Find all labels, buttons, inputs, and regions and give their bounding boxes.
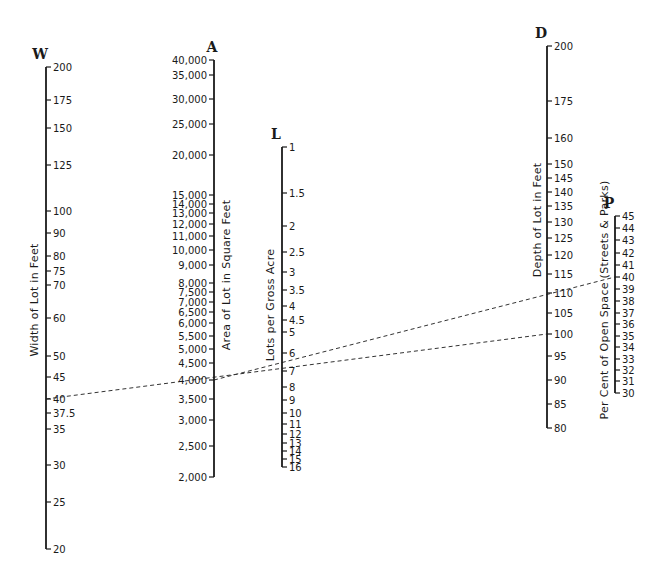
tick-label: 50 <box>53 351 66 362</box>
tick-label: 35 <box>622 331 635 342</box>
tick-label: 4.5 <box>289 315 305 326</box>
tick-label: 3 <box>289 267 295 278</box>
tick-label: 125 <box>554 233 573 244</box>
tick-label: 10 <box>289 408 302 419</box>
axis-d: D200175160150145140135130125120115110105… <box>531 25 573 434</box>
tick-label: 40 <box>622 272 635 283</box>
axis-title: W <box>31 46 48 62</box>
axis-title: D <box>535 25 547 41</box>
tick-label: 9 <box>289 395 295 406</box>
tick-label: 60 <box>53 313 66 324</box>
tick-label: 130 <box>554 217 573 228</box>
tick-label: 37 <box>622 308 635 319</box>
tick-label: 34 <box>622 342 635 353</box>
tick-label: 12,000 <box>172 219 207 230</box>
tick-label: 200 <box>554 41 573 52</box>
tick-label: 42 <box>622 248 635 259</box>
tick-label: 75 <box>53 266 66 277</box>
tick-label: 175 <box>53 95 72 106</box>
tick-label: 85 <box>554 399 567 410</box>
axis-caption: Depth of Lot in Feet <box>531 162 544 277</box>
axis-title: A <box>206 39 219 55</box>
tick-label: 175 <box>554 96 573 107</box>
tick-label: 6,000 <box>178 318 207 329</box>
tick-label: 16 <box>289 462 302 473</box>
tick-label: 160 <box>554 133 573 144</box>
axis-title: L <box>271 126 281 142</box>
tick-label: 10,000 <box>172 245 207 256</box>
tick-label: 32 <box>622 365 635 376</box>
axis-p: P45444342414039383736353433323130Per Cen… <box>598 180 635 419</box>
tick-label: 45 <box>622 211 635 222</box>
tick-label: 125 <box>53 160 72 171</box>
tick-label: 4,500 <box>178 358 207 369</box>
tick-label: 7 <box>289 366 295 377</box>
tick-label: 40 <box>53 394 66 405</box>
tick-label: 8 <box>289 382 295 393</box>
tick-label: 3.5 <box>289 285 305 296</box>
tick-label: 9,000 <box>178 260 207 271</box>
tick-label: 37.5 <box>53 408 75 419</box>
tick-label: 44 <box>622 223 635 234</box>
tick-label: 30 <box>53 460 66 471</box>
tick-label: 145 <box>554 173 573 184</box>
axis-w: W200175150125100908075706050454037.53530… <box>28 46 75 555</box>
tick-label: 35,000 <box>172 70 207 81</box>
tick-label: 90 <box>53 228 66 239</box>
tick-label: 35 <box>53 424 66 435</box>
tick-label: 2,000 <box>178 472 207 483</box>
tick-label: 36 <box>622 319 635 330</box>
tick-label: 5 <box>289 327 295 338</box>
tick-label: 30 <box>622 388 635 399</box>
tick-label: 3,000 <box>178 415 207 426</box>
tick-label: 6,500 <box>178 307 207 318</box>
tick-label: 5,000 <box>178 344 207 355</box>
tick-label: 39 <box>622 284 635 295</box>
tick-label: 25 <box>53 497 66 508</box>
tick-label: 200 <box>53 62 72 73</box>
tick-label: 80 <box>53 251 66 262</box>
tick-label: 5,500 <box>178 331 207 342</box>
tick-label: 13,000 <box>172 208 207 219</box>
tick-label: 100 <box>554 329 573 340</box>
tick-label: 2,500 <box>178 441 207 452</box>
tick-label: 95 <box>554 351 567 362</box>
example-isoline-1 <box>46 334 547 399</box>
axis-caption: Lots per Gross Acre <box>264 249 277 362</box>
axis-caption: Per Cent of Open Space (Streets & Parks) <box>598 180 611 419</box>
tick-label: 20,000 <box>172 150 207 161</box>
tick-label: 100 <box>53 206 72 217</box>
tick-label: 11,000 <box>172 231 207 242</box>
tick-label: 110 <box>554 288 573 299</box>
tick-label: 20 <box>53 544 66 555</box>
tick-label: 25,000 <box>172 119 207 130</box>
tick-label: 4 <box>289 301 295 312</box>
tick-label: 38 <box>622 296 635 307</box>
tick-label: 41 <box>622 260 635 271</box>
example-lines <box>46 277 615 399</box>
tick-label: 1.5 <box>289 188 305 199</box>
tick-label: 3,500 <box>178 394 207 405</box>
tick-label: 4,000 <box>178 375 207 386</box>
tick-label: 40,000 <box>172 55 207 66</box>
axis-caption: Width of Lot in Feet <box>28 243 41 357</box>
tick-label: 31 <box>622 376 635 387</box>
tick-label: 2.5 <box>289 247 305 258</box>
tick-label: 80 <box>554 423 567 434</box>
nomogram: W200175150125100908075706050454037.53530… <box>0 0 666 573</box>
tick-label: 45 <box>53 372 66 383</box>
tick-label: 120 <box>554 250 573 261</box>
tick-label: 33 <box>622 354 635 365</box>
tick-label: 43 <box>622 235 635 246</box>
axis-l: L11.522.533.544.55678910111213141516Lots… <box>264 126 305 473</box>
tick-label: 90 <box>554 375 567 386</box>
tick-label: 135 <box>554 201 573 212</box>
tick-label: 30,000 <box>172 94 207 105</box>
tick-label: 115 <box>554 269 573 280</box>
tick-label: 6 <box>289 348 295 359</box>
axis-a: A40,00035,00030,00025,00020,00015,00014,… <box>172 39 233 483</box>
tick-label: 140 <box>554 187 573 198</box>
tick-label: 150 <box>554 159 573 170</box>
tick-label: 150 <box>53 123 72 134</box>
tick-label: 1 <box>289 142 295 153</box>
